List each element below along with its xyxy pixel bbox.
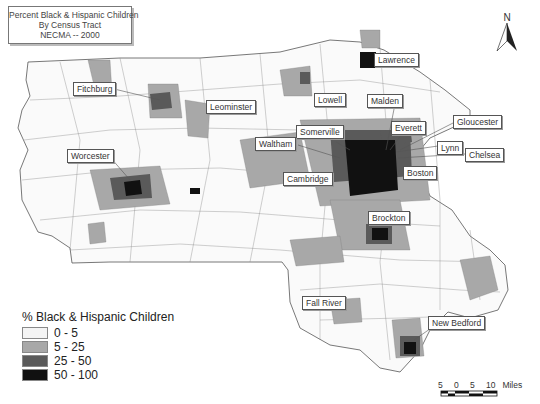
city-label-lynn: Lynn	[437, 141, 463, 155]
north-arrow-icon	[495, 23, 519, 53]
scale-unit: Miles	[502, 380, 522, 390]
map-title-box: Percent Black & Hispanic Children By Cen…	[8, 6, 132, 44]
legend-label: 50 - 100	[54, 368, 98, 382]
legend-label: 0 - 5	[54, 326, 78, 340]
city-label-lawrence: Lawrence	[374, 53, 419, 67]
legend-swatch	[22, 355, 48, 367]
city-label-lowell: Lowell	[314, 93, 346, 107]
city-label-fall-river: Fall River	[302, 296, 346, 310]
north-label: N	[495, 12, 519, 23]
city-label-leominster: Leominster	[206, 100, 256, 114]
city-label-brockton: Brockton	[368, 211, 410, 225]
scale-tick: 5	[470, 380, 486, 390]
city-label-malden: Malden	[367, 94, 403, 108]
scale-tick: 5	[438, 380, 454, 390]
city-label-waltham: Waltham	[255, 137, 296, 151]
scale-bar-graphic	[438, 390, 500, 398]
city-label-somerville: Somerville	[296, 125, 344, 139]
legend: % Black & Hispanic Children 0 - 5 5 - 25…	[22, 310, 174, 382]
city-label-worcester: Worcester	[67, 149, 114, 163]
city-label-boston: Boston	[403, 166, 437, 180]
legend-title: % Black & Hispanic Children	[22, 310, 174, 324]
scale-tick: 10	[486, 380, 500, 390]
legend-label: 5 - 25	[54, 340, 85, 354]
map-title: Percent Black & Hispanic Children	[9, 10, 131, 20]
city-label-chelsea: Chelsea	[465, 148, 504, 162]
legend-item: 0 - 5	[22, 326, 174, 340]
city-label-gloucester: Gloucester	[453, 115, 502, 129]
north-arrow: N	[495, 12, 519, 57]
city-label-new-bedford: New Bedford	[428, 316, 485, 330]
city-label-fitchburg: Fitchburg	[73, 82, 116, 96]
map-subtitle: By Census Tract	[9, 20, 131, 30]
legend-item: 25 - 50	[22, 354, 174, 368]
scale-ticks: 50510 Miles	[438, 380, 522, 390]
legend-label: 25 - 50	[54, 354, 91, 368]
scale-bar: 50510 Miles	[438, 380, 522, 400]
legend-swatch	[22, 341, 48, 353]
city-label-everett: Everett	[391, 121, 426, 135]
scale-tick: 0	[454, 380, 470, 390]
legend-item: 5 - 25	[22, 340, 174, 354]
city-label-cambridge: Cambridge	[283, 172, 333, 186]
legend-swatch	[22, 369, 48, 381]
legend-swatch	[22, 327, 48, 339]
map-region-year: NECMA -- 2000	[9, 30, 131, 40]
legend-item: 50 - 100	[22, 368, 174, 382]
